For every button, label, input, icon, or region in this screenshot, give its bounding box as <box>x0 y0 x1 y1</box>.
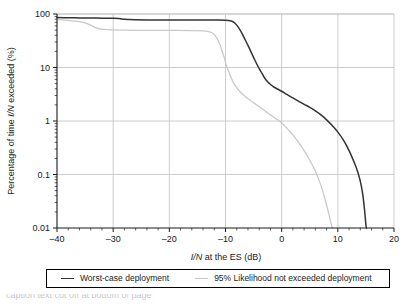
figure-container: 1001010.10.01 –40–30–20–1001020 I/N at t… <box>0 0 418 307</box>
legend-swatch-95-likelihood <box>195 278 208 279</box>
caption-partial-text: caption text cut off at bottom of page <box>6 294 151 300</box>
legend-entry-95-likelihood: 95% Likelihood not exceeded deployment <box>195 274 371 283</box>
legend-entry-worst-case: Worst-case deployment <box>61 274 169 283</box>
legend-label-worst-case: Worst-case deployment <box>80 274 169 283</box>
distribution-chart: 1001010.10.01 –40–30–20–1001020 I/N at t… <box>0 0 418 307</box>
y-tick-label: 0.01 <box>32 223 50 233</box>
x-tick-label: –40 <box>49 234 64 244</box>
x-axis-ticks: –40–30–20–1001020 <box>49 228 399 244</box>
y-axis-title: Percentage of time I/N exceeded (%) <box>6 47 16 195</box>
legend-label-95-likelihood: 95% Likelihood not exceeded deployment <box>214 274 371 283</box>
page-caption-strip: caption text cut off at bottom of page <box>0 294 418 307</box>
chart-legend: Worst-case deployment 95% Likelihood not… <box>46 269 390 288</box>
y-tick-label: 100 <box>35 9 50 19</box>
x-axis-title: I/N at the ES (dB) <box>191 252 262 262</box>
x-tick-label: –10 <box>218 234 233 244</box>
x-tick-label: 20 <box>389 234 399 244</box>
x-tick-label: –20 <box>162 234 177 244</box>
y-tick-label: 0.1 <box>37 170 50 180</box>
legend-swatch-worst-case <box>61 278 74 279</box>
y-tick-label: 10 <box>40 63 50 73</box>
x-tick-label: 0 <box>279 234 284 244</box>
y-tick-label: 1 <box>45 116 50 126</box>
x-tick-label: 10 <box>333 234 343 244</box>
x-tick-label: –30 <box>106 234 121 244</box>
y-axis-ticks: 1001010.10.01 <box>32 9 57 233</box>
